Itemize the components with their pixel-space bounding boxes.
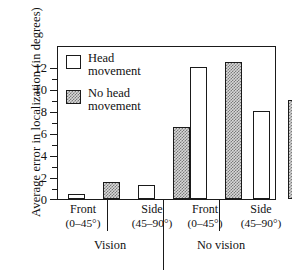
legend: Head movement No head movement — [66, 52, 186, 122]
group-separator-vision-novision — [163, 200, 164, 270]
legend-label-line2: movement — [88, 65, 141, 78]
category-label-novision-side: Side (45–90°) — [223, 203, 292, 230]
bar-novision-side-head-movement — [253, 111, 270, 199]
legend-label-head-movement: Head movement — [88, 52, 141, 77]
legend-label-line1: No head — [88, 87, 141, 100]
y-tick-label-8: 8 — [17, 106, 47, 118]
bar-vision-side-head-movement — [138, 185, 155, 198]
category-separator-vision — [107, 200, 108, 231]
hatched-square-swatch-icon — [66, 90, 81, 104]
y-tick-label-12: 12 — [17, 62, 47, 74]
category-label-vision-front: Front (0–45°) — [45, 203, 121, 230]
y-tick-label-10: 10 — [17, 84, 47, 96]
legend-label-no-head-movement: No head movement — [88, 87, 141, 112]
legend-item-no-head-movement: No head movement — [66, 87, 186, 112]
category-label-line2: (0–45°) — [45, 217, 121, 231]
y-tick-label-0: 0 — [17, 194, 47, 206]
category-label-line1: Side — [223, 203, 292, 217]
bar-novision-side-no-head-movement — [288, 100, 292, 199]
bar-novision-front-head-movement — [190, 67, 207, 199]
open-square-swatch-icon — [66, 55, 81, 69]
bar-novision-front-no-head-movement — [225, 62, 242, 199]
bar-chart-figure: Average error in localization (in degree… — [0, 0, 292, 280]
y-tick-label-6: 6 — [17, 128, 47, 140]
group-label-vision: Vision — [55, 238, 165, 253]
legend-item-head-movement: Head movement — [66, 52, 186, 77]
y-tick-label-2: 2 — [17, 172, 47, 184]
bar-vision-front-no-head-movement — [103, 182, 120, 198]
category-label-line2: (45–90°) — [223, 217, 292, 231]
group-label-no-vision: No vision — [166, 238, 276, 253]
legend-label-line1: Head — [88, 52, 141, 65]
legend-label-line2: movement — [88, 100, 141, 113]
bar-vision-front-head-movement — [68, 194, 85, 198]
category-separator-novision — [219, 200, 220, 231]
bar-vision-side-no-head-movement — [173, 127, 190, 198]
y-tick-label-4: 4 — [17, 150, 47, 162]
category-label-line1: Front — [45, 203, 121, 217]
